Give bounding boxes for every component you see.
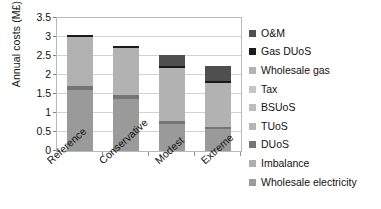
y-tick-label: 3	[45, 31, 51, 41]
y-tick-label: 1.5	[36, 88, 51, 98]
y-tick-label: 1	[45, 107, 51, 117]
bar-slot	[149, 18, 195, 151]
legend-item[interactable]: Tax	[249, 80, 381, 99]
legend-item[interactable]: O&M	[249, 24, 381, 43]
legend-swatch-icon	[249, 104, 256, 111]
legend-swatch-icon	[249, 30, 256, 37]
legend-item[interactable]: TUoS	[249, 117, 381, 136]
legend-swatch-icon	[249, 160, 256, 167]
legend-item[interactable]: Gas DUoS	[249, 43, 381, 62]
legend-swatch-icon	[249, 141, 256, 148]
x-tick-mark	[102, 152, 103, 156]
y-axis-tick-labels: 00.511.522.533.5	[18, 12, 54, 153]
legend-label: TUoS	[261, 121, 288, 132]
y-tick-label: 0.5	[36, 126, 51, 136]
legend-label: O&M	[261, 28, 285, 39]
legend-swatch-icon	[249, 48, 256, 55]
legend-swatch-icon	[249, 86, 256, 93]
legend-item[interactable]: BSUoS	[249, 98, 381, 117]
bar-segment[interactable]	[67, 37, 93, 86]
bar-segment[interactable]	[205, 66, 231, 80]
legend-item[interactable]: Imbalance	[249, 154, 381, 173]
y-tick-label: 2.5	[36, 50, 51, 60]
bar-segment[interactable]	[205, 83, 231, 127]
legend-item[interactable]: DUoS	[249, 136, 381, 155]
legend-label: Tax	[261, 84, 277, 95]
chart-legend: O&MGas DUoSWholesale gasTaxBSUoSTUoSDUoS…	[249, 24, 381, 191]
x-tick-mark	[194, 152, 195, 156]
legend-swatch-icon	[249, 67, 256, 74]
legend-label: Wholesale electricity	[261, 177, 357, 188]
legend-item[interactable]: Wholesale electricity	[249, 173, 381, 192]
legend-swatch-icon	[249, 123, 256, 130]
bar-segment[interactable]	[159, 68, 185, 121]
bar-segment[interactable]	[159, 55, 185, 66]
legend-swatch-icon	[249, 179, 256, 186]
legend-label: Wholesale gas	[261, 65, 330, 76]
stacked-bar[interactable]	[159, 55, 185, 151]
y-tick-label: 3.5	[36, 12, 51, 22]
legend-item[interactable]: Wholesale gas	[249, 61, 381, 80]
x-tick-mark	[148, 152, 149, 156]
bar-slot	[195, 18, 241, 151]
legend-label: Imbalance	[261, 158, 309, 169]
legend-label: BSUoS	[261, 102, 295, 113]
bar-segment[interactable]	[113, 48, 139, 95]
legend-label: DUoS	[261, 139, 289, 150]
x-tick-mark	[240, 152, 241, 156]
chart-figure: Annual costs (M£) 00.511.522.533.5 Refer…	[0, 0, 381, 209]
y-tick-label: 2	[45, 69, 51, 79]
legend-label: Gas DUoS	[261, 46, 311, 57]
